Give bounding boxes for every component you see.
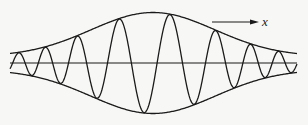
- wave-packet-figure: x: [0, 0, 308, 125]
- direction-label-x: x: [261, 14, 268, 29]
